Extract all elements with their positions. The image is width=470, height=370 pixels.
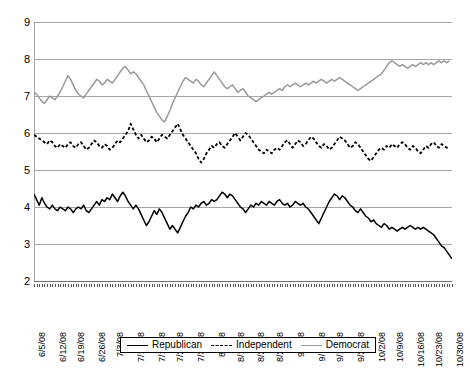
x-tickmark	[94, 284, 95, 287]
legend-label: Democrat	[326, 340, 369, 350]
x-tickmark	[272, 284, 273, 287]
x-tickmark	[415, 284, 416, 287]
x-tickmark	[392, 284, 393, 287]
x-tickmark	[329, 284, 330, 287]
x-tickmark	[431, 284, 432, 287]
x-tickmark	[436, 284, 437, 287]
x-tickmark	[55, 284, 56, 287]
x-tick-label: 10/9/08	[396, 332, 405, 362]
x-tickmark	[191, 284, 192, 287]
x-tickmark	[306, 284, 307, 287]
x-tickmark	[99, 284, 100, 287]
x-tickmark	[235, 284, 236, 287]
x-tickmark	[282, 284, 283, 287]
x-tickmark	[125, 284, 126, 287]
x-tickmark	[141, 284, 142, 287]
x-tickmark	[261, 284, 262, 287]
x-tickmark	[269, 284, 270, 287]
x-tickmark	[379, 284, 380, 287]
x-tickmark	[107, 284, 108, 287]
x-tickmark	[381, 284, 382, 287]
x-tick-label: 6/12/08	[59, 332, 68, 362]
x-tickmark	[222, 284, 223, 287]
x-tickmark	[418, 284, 419, 287]
x-tickmark	[154, 284, 155, 287]
y-tick-label: 4	[4, 202, 30, 213]
x-tickmark	[363, 284, 364, 287]
x-tickmark	[426, 284, 427, 287]
x-tickmark	[410, 284, 411, 287]
x-tickmark	[193, 284, 194, 287]
x-tickmark	[188, 284, 189, 287]
x-tickmark	[170, 284, 171, 287]
x-tickmark	[285, 284, 286, 287]
x-tickmark	[298, 284, 299, 287]
x-tick-label: 10/2/08	[378, 332, 387, 362]
x-tickmark	[128, 284, 129, 287]
legend-swatch-icon	[127, 345, 148, 346]
x-tickmark	[238, 284, 239, 287]
x-tickmark	[139, 284, 140, 287]
x-tickmark	[110, 284, 111, 287]
y-tick-label: 9	[4, 17, 30, 28]
x-tickmark	[397, 284, 398, 287]
x-tickmark	[384, 284, 385, 287]
x-tickmark	[212, 284, 213, 287]
x-tickmark	[123, 284, 124, 287]
x-tickmark	[112, 284, 113, 287]
x-tickmark	[452, 284, 453, 287]
x-tickmark	[389, 284, 390, 287]
x-tickmark	[447, 284, 448, 287]
x-tick-label: 6/5/08	[38, 332, 47, 357]
x-tickmark	[73, 284, 74, 287]
x-tickmark	[408, 284, 409, 287]
x-tickmark	[76, 284, 77, 287]
x-tickmark	[314, 284, 315, 287]
x-tickmark	[91, 284, 92, 287]
x-tickmark	[444, 284, 445, 287]
x-tickmark	[439, 284, 440, 287]
x-tickmark	[308, 284, 309, 287]
y-tick-label: 8	[4, 54, 30, 65]
x-tickmark	[152, 284, 153, 287]
x-tickmark	[217, 284, 218, 287]
x-tickmark	[316, 284, 317, 287]
x-tickmark	[225, 284, 226, 287]
x-tickmark	[165, 284, 166, 287]
legend-item-democrat: Democrat	[301, 340, 369, 350]
x-tickmark	[243, 284, 244, 287]
x-tickmark	[180, 284, 181, 287]
x-tickmark	[144, 284, 145, 287]
x-tickmark	[206, 284, 207, 287]
x-tickmark	[172, 284, 173, 287]
x-tickmark	[345, 284, 346, 287]
x-tickmark	[214, 284, 215, 287]
x-tickmark	[209, 284, 210, 287]
x-tickmark	[259, 284, 260, 287]
x-tickmark	[240, 284, 241, 287]
x-tickmark	[350, 284, 351, 287]
legend-label: Independent	[236, 340, 292, 350]
x-axis-line	[34, 281, 452, 282]
x-tickmark	[449, 284, 450, 287]
x-tickmark	[319, 284, 320, 287]
x-tick-label: 6/26/08	[98, 332, 107, 362]
x-tickmark	[327, 284, 328, 287]
x-tickmark	[39, 284, 40, 287]
x-tickmark	[366, 284, 367, 287]
x-tickmark	[199, 284, 200, 287]
x-tickmark	[81, 284, 82, 287]
series-lines	[34, 22, 452, 281]
x-tickmark	[102, 284, 103, 287]
y-tick-label: 6	[4, 128, 30, 139]
x-tickmark	[183, 284, 184, 287]
x-tickmark	[374, 284, 375, 287]
x-tickmark	[340, 284, 341, 287]
x-tickmark	[248, 284, 249, 287]
x-tickmark	[175, 284, 176, 287]
x-tickmark	[227, 284, 228, 287]
x-tickmark	[120, 284, 121, 287]
x-tickmark	[186, 284, 187, 287]
x-tickmark	[50, 284, 51, 287]
x-tick-label: 10/16/08	[417, 332, 426, 367]
